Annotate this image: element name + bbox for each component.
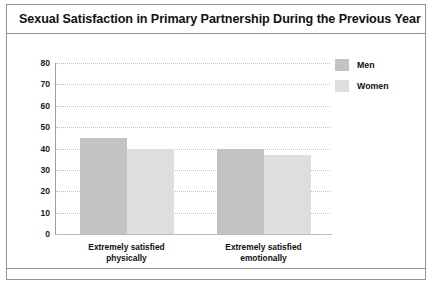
y-tick-label-0: 0	[12, 229, 50, 239]
chart-figure: Sexual Satisfaction in Primary Partnersh…	[0, 0, 434, 286]
title-divider	[7, 33, 425, 34]
legend-swatch-men-icon	[335, 59, 349, 71]
bar-men-group-1[interactable]	[80, 138, 127, 234]
category-label-line: emotionally	[199, 253, 329, 264]
footer-divider	[7, 268, 425, 269]
legend-label-women: Women	[357, 81, 389, 91]
category-label-2: Extremely satisfiedemotionally	[199, 242, 329, 264]
legend-swatch-women-icon	[335, 80, 349, 92]
legend-item-women[interactable]: Women	[335, 78, 423, 94]
y-tick-label-50: 50	[12, 122, 50, 132]
chart-legend: Men Women	[335, 57, 423, 99]
y-tick-label-20: 20	[12, 186, 50, 196]
y-tick-label-40: 40	[12, 144, 50, 154]
y-tick-label-70: 70	[12, 79, 50, 89]
chart-title-bar: Sexual Satisfaction in Primary Partnersh…	[7, 5, 425, 33]
legend-label-men: Men	[357, 60, 375, 70]
category-label-line: physically	[62, 253, 192, 264]
page-title: Sexual Satisfaction in Primary Partnersh…	[19, 12, 421, 26]
category-label-line: Extremely satisfied	[199, 242, 329, 253]
y-tick-label-30: 30	[12, 165, 50, 175]
bar-women-group-1[interactable]	[127, 149, 174, 235]
y-axis-labels: 80706050403020100	[10, 63, 50, 235]
bars-layer	[56, 63, 330, 234]
plot-area	[56, 63, 330, 235]
y-tick-label-60: 60	[12, 101, 50, 111]
bar-men-group-2[interactable]	[217, 149, 264, 235]
legend-item-men[interactable]: Men	[335, 57, 423, 73]
category-label-1: Extremely satisfiedphysically	[62, 242, 192, 264]
y-tick-label-10: 10	[12, 208, 50, 218]
category-label-line: Extremely satisfied	[62, 242, 192, 253]
y-tick-label-80: 80	[12, 58, 50, 68]
bar-women-group-2[interactable]	[264, 155, 311, 234]
